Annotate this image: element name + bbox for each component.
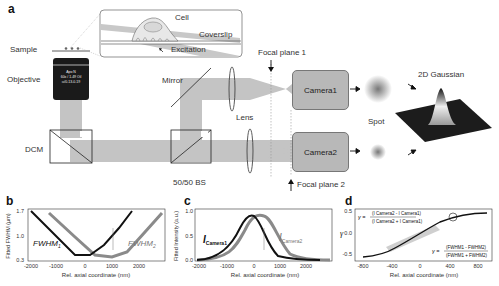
- svg-text:(I Camera2 - I Camera1): (I Camera2 - I Camera1): [372, 211, 422, 216]
- svg-text:400: 400: [445, 263, 454, 269]
- chart-d: 0.5 0.0 -0.5 γ -800 -400 0 400 800 Rel. …: [0, 0, 499, 286]
- svg-text:-800: -800: [357, 263, 368, 269]
- svg-text:Rel. axial coordinate (nm): Rel. axial coordinate (nm): [390, 272, 458, 278]
- svg-text:-0.5: -0.5: [343, 251, 352, 257]
- svg-text:0.5: 0.5: [344, 208, 352, 214]
- svg-text:γ =: γ =: [432, 248, 440, 254]
- svg-text:(FWHM1 + FWHM2): (FWHM1 + FWHM2): [446, 253, 488, 258]
- svg-text:0.0: 0.0: [344, 230, 352, 236]
- svg-text:0: 0: [418, 263, 421, 269]
- svg-text:γ =: γ =: [358, 214, 366, 220]
- svg-text:800: 800: [473, 263, 482, 269]
- svg-text:(I Camera2 + I Camera1): (I Camera2 + I Camera1): [372, 219, 423, 224]
- svg-text:(FWHM1 - FWHM2): (FWHM1 - FWHM2): [446, 245, 486, 250]
- svg-text:-400: -400: [386, 263, 397, 269]
